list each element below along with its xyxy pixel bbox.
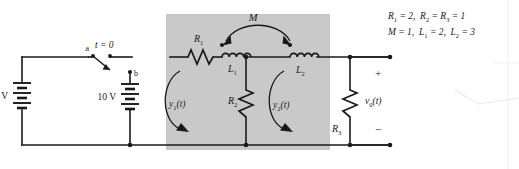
mutual-inductance-label: M — [248, 12, 259, 23]
battery-10v-label: 10 V — [97, 92, 116, 102]
node-bottom-10v — [128, 143, 133, 148]
switch-terminal-b-label: b — [134, 69, 138, 78]
battery-5v-label: 5 V — [0, 91, 8, 101]
parameters-line-1: R1 = 2, R2 = R3 = 1 — [387, 11, 465, 23]
parameters-line-2: M = 1, L1 = 2, L2 = 3 — [387, 27, 475, 39]
switch-terminal-a-label: a — [85, 44, 89, 53]
node-bottom-r2 — [244, 143, 249, 148]
node-top-r3 — [348, 55, 353, 60]
mesh-current-1-label: y1(t) — [168, 99, 185, 111]
resistor-r3-label: R3 — [331, 123, 341, 136]
node-bottom-r3 — [348, 143, 353, 148]
node-top-r2 — [244, 55, 249, 60]
mesh-current-2-label: y2(t) — [272, 100, 289, 112]
switch-contact-node — [108, 54, 112, 58]
shaded-region — [166, 14, 330, 150]
battery-5v — [13, 83, 31, 108]
switch-time-label: t = 0 — [95, 40, 114, 50]
output-terminal-negative — [388, 143, 393, 148]
output-voltage-label: v0(t) — [365, 96, 381, 108]
output-terminal-positive — [388, 55, 393, 60]
switch-terminal-b-node — [128, 70, 132, 74]
figure-canvas: 5 V 10 V a b t = 0 — [0, 0, 519, 169]
scan-artifact — [455, 0, 519, 169]
battery-10v — [121, 84, 139, 109]
circuit-diagram: 5 V 10 V a b t = 0 — [0, 0, 519, 169]
output-minus-sign: − — [375, 123, 381, 135]
output-plus-sign: + — [375, 67, 381, 79]
resistor-r3 — [343, 90, 357, 117]
